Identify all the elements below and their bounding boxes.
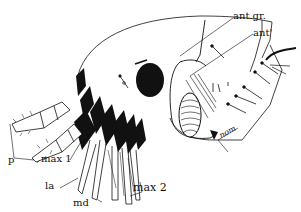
diagram-figure: ant.gr. ant' p max 1 la md max 2 nom <box>0 0 301 212</box>
label-ant: ant' <box>253 28 272 38</box>
label-la: la <box>45 181 54 191</box>
antenna-socket <box>170 20 216 138</box>
label-max1: max 1 <box>41 154 72 164</box>
label-md: md <box>73 198 89 208</box>
leader-ant <box>190 34 253 76</box>
label-p: p <box>8 155 14 165</box>
eye <box>136 63 164 97</box>
label-max2: max 2 <box>133 182 167 193</box>
mouthpart-sclerites <box>74 68 146 154</box>
leader-md <box>98 200 102 202</box>
leader-la <box>60 178 78 188</box>
head-capsule-outline <box>78 16 262 75</box>
leader-ant-gr <box>180 18 233 56</box>
label-ant-gr: ant.gr. <box>233 11 266 21</box>
